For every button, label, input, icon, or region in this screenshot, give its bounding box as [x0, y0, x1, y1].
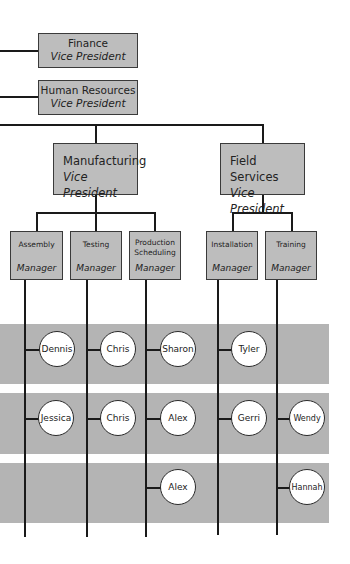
production-scheduling-manager-box: Production Scheduling Manager	[129, 231, 181, 280]
testing-title: Manager	[71, 263, 121, 273]
finance-department: Finance	[39, 37, 137, 50]
connector-finance	[0, 50, 38, 52]
field-services-vp-box: Field Services Vice President	[220, 143, 305, 195]
connector-fs-down	[262, 195, 264, 213]
hr-vp-box: Human Resources Vice President	[38, 80, 138, 115]
hr-title: Vice President	[39, 97, 137, 110]
connector-fs-managers	[232, 212, 292, 214]
hr-department: Human Resources	[39, 84, 137, 97]
production-scheduling-department: Production Scheduling	[130, 238, 180, 258]
finance-vp-box: Finance Vice President	[38, 33, 138, 68]
assembly-title: Manager	[11, 263, 62, 273]
connector-installation	[232, 212, 234, 231]
production-scheduling-title: Manager	[130, 263, 180, 273]
employee-hannah: Hannah	[289, 469, 325, 505]
connector-hr	[0, 96, 38, 98]
connector-production	[154, 212, 156, 231]
testing-department: Testing	[71, 240, 121, 250]
training-title: Manager	[266, 263, 316, 273]
installation-manager-box: Installation Manager	[206, 231, 258, 280]
connector-testing	[95, 212, 97, 231]
employee-dennis: Dennis	[39, 331, 75, 367]
column-line-testing	[86, 280, 88, 537]
installation-department: Installation	[207, 240, 257, 250]
connector-field-services	[262, 124, 264, 143]
employee-tyler: Tyler	[231, 331, 267, 367]
training-manager-box: Training Manager	[265, 231, 317, 280]
training-department: Training	[266, 240, 316, 250]
stub	[145, 487, 161, 489]
connector-training	[291, 212, 293, 231]
employee-alex-1: Alex	[160, 400, 196, 436]
employee-sharon: Sharon	[160, 331, 196, 367]
column-line-production	[145, 280, 147, 537]
column-line-assembly	[24, 280, 26, 537]
field-services-department: Field Services	[221, 153, 304, 185]
stub	[145, 349, 161, 351]
assembly-department: Assembly	[11, 240, 62, 250]
employee-chris-2: Chris	[100, 400, 136, 436]
installation-title: Manager	[207, 263, 257, 273]
manufacturing-department: Manufacturing	[54, 153, 137, 169]
connector-assembly	[36, 212, 38, 231]
connector-main	[0, 124, 263, 126]
employee-jessica: Jessica	[38, 400, 74, 436]
testing-manager-box: Testing Manager	[70, 231, 122, 280]
stub	[24, 349, 40, 351]
stub	[145, 418, 161, 420]
finance-title: Vice President	[39, 50, 137, 63]
column-line-training	[276, 280, 278, 535]
employee-chris-1: Chris	[100, 331, 136, 367]
assembly-manager-box: Assembly Manager	[10, 231, 63, 280]
manufacturing-vp-box: Manufacturing Vice President	[53, 143, 138, 195]
employee-wendy: Wendy	[289, 400, 325, 436]
connector-manufacturing	[95, 124, 97, 143]
employee-gerri: Gerri	[231, 400, 267, 436]
employee-alex-2: Alex	[160, 469, 196, 505]
connector-mfg-down	[95, 195, 97, 213]
column-line-installation	[217, 280, 219, 535]
